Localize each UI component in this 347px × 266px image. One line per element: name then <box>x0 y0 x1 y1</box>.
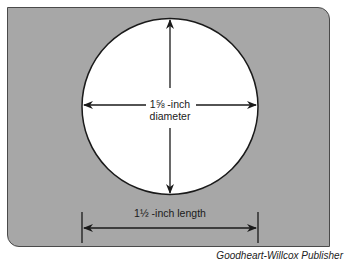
publisher-credit: Goodheart-Willcox Publisher <box>216 250 343 261</box>
diameter-label-line2: diameter <box>120 110 220 122</box>
diagram-drawing <box>0 0 347 266</box>
length-label: 1½ -inch length <box>100 207 240 219</box>
diameter-label-line1: 1⅝ -inch <box>120 98 220 110</box>
diameter-label: 1⅝ -inch diameter <box>120 98 220 122</box>
